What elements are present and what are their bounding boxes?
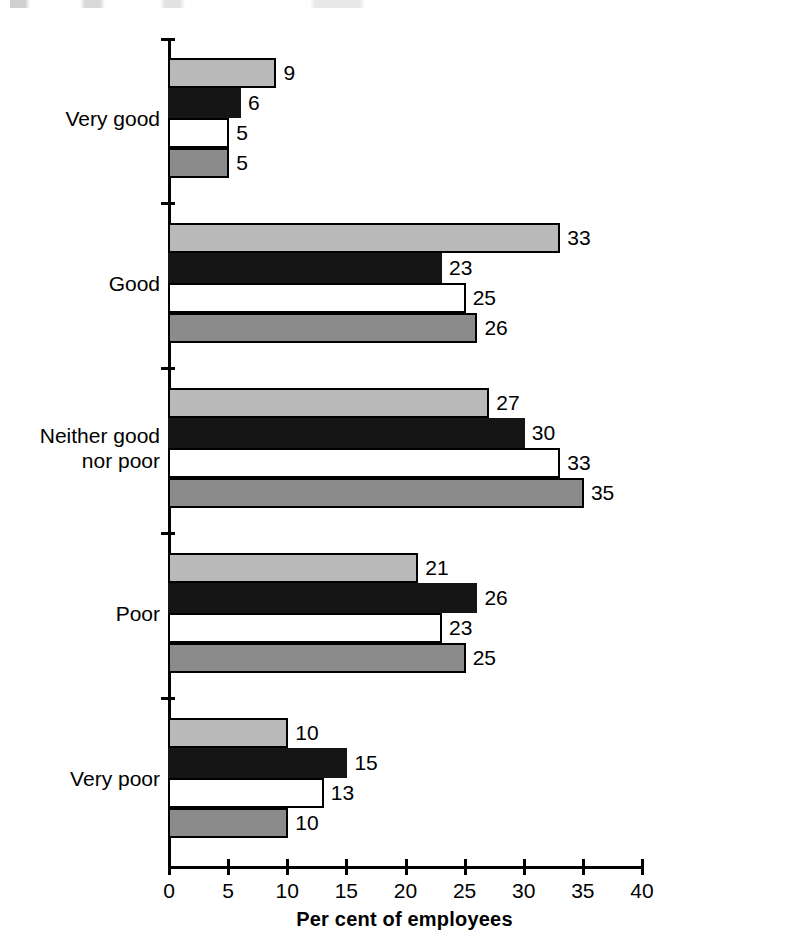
x-axis-tick-label-40: 40 [620,880,664,902]
bar [168,118,229,148]
category-label-line: Very good [0,106,160,131]
bar-value-label: 33 [567,223,590,253]
bar [168,418,525,448]
bar [168,748,347,778]
x-axis-tick-40 [641,859,644,875]
x-axis-tick-10 [286,859,289,875]
x-axis-title: Per cent of employees [168,908,641,931]
bar [168,58,276,88]
bar-value-label: 23 [449,613,472,643]
x-axis-tick-label-15: 15 [324,880,368,902]
x-axis-tick-15 [345,859,348,875]
bar [168,643,466,673]
bar [168,553,418,583]
y-axis-tick-3 [161,532,175,535]
category-label-line: nor poor [0,448,160,473]
bar-value-label: 27 [496,388,519,418]
bar-value-label: 10 [295,808,318,838]
bar [168,778,324,808]
bar-value-label: 35 [591,478,614,508]
y-axis-tick-0 [161,38,175,41]
category-label-4: Very poor [0,766,160,791]
x-axis-tick-5 [227,859,230,875]
category-label-line: Very poor [0,766,160,791]
bar-chart: 0510152025303540 96553323252627303335212… [0,0,805,952]
bar-value-label: 25 [473,643,496,673]
category-label-0: Very good [0,106,160,131]
x-axis-tick-0 [168,859,171,875]
bar [168,253,442,283]
bar-value-label: 25 [473,283,496,313]
x-axis-tick-30 [523,859,526,875]
x-axis-tick-label-10: 10 [265,880,309,902]
plot-area: 0510152025303540 96553323252627303335212… [0,0,805,952]
x-axis-tick-label-25: 25 [443,880,487,902]
x-axis-tick-label-30: 30 [502,880,546,902]
category-label-line: Poor [0,601,160,626]
y-axis-tick-1 [161,202,175,205]
x-axis-tick-label-0: 0 [147,880,191,902]
bar-value-label: 13 [331,778,354,808]
x-axis-tick-label-20: 20 [384,880,428,902]
x-axis-tick-label-35: 35 [561,880,605,902]
bar [168,448,560,478]
bar [168,88,241,118]
bar-value-label: 5 [236,148,248,178]
category-label-line: Neither good [0,423,160,448]
y-axis-tick-4 [161,697,175,700]
x-axis-tick-35 [582,859,585,875]
bar [168,613,442,643]
bar-value-label: 9 [283,58,295,88]
bar [168,313,477,343]
bar-value-label: 21 [425,553,448,583]
bar [168,388,489,418]
category-label-2: Neither goodnor poor [0,423,160,473]
bar [168,478,584,508]
category-label-3: Poor [0,601,160,626]
bar [168,223,560,253]
bar [168,718,288,748]
bar-value-label: 23 [449,253,472,283]
y-axis-tick-2 [161,367,175,370]
bar [168,808,288,838]
bar [168,583,477,613]
category-label-1: Good [0,271,160,296]
bar-value-label: 5 [236,118,248,148]
bar [168,283,466,313]
bar-value-label: 6 [248,88,260,118]
x-axis-tick-25 [464,859,467,875]
bar-value-label: 33 [567,448,590,478]
bar [168,148,229,178]
bar-value-label: 30 [532,418,555,448]
bar-value-label: 15 [354,748,377,778]
x-axis-tick-label-5: 5 [206,880,250,902]
x-axis-tick-20 [405,859,408,875]
bar-value-label: 26 [484,583,507,613]
bar-value-label: 26 [484,313,507,343]
bar-value-label: 10 [295,718,318,748]
category-label-line: Good [0,271,160,296]
